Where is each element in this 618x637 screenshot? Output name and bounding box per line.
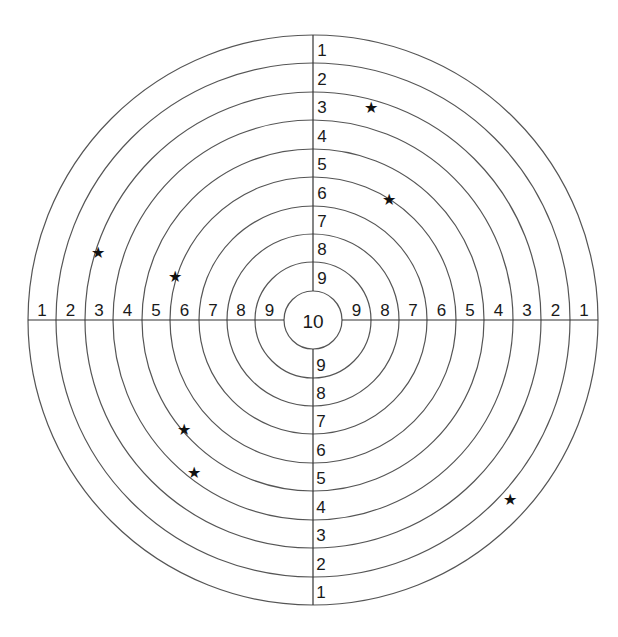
star-icon: ★ xyxy=(187,465,201,481)
bottom-label-9: 9 xyxy=(316,356,325,373)
bottom-label-6: 6 xyxy=(316,441,325,458)
top-label-8: 8 xyxy=(317,241,326,258)
left-label-6: 6 xyxy=(180,302,189,319)
right-label-3: 3 xyxy=(522,302,531,319)
right-label-8: 8 xyxy=(380,302,389,319)
top-label-6: 6 xyxy=(317,184,326,201)
left-label-1: 1 xyxy=(37,302,46,319)
bottom-label-4: 4 xyxy=(316,498,325,515)
left-label-3: 3 xyxy=(94,302,103,319)
star-icon: ★ xyxy=(364,100,378,116)
left-label-8: 8 xyxy=(236,302,245,319)
star-icon: ★ xyxy=(91,245,105,261)
left-label-2: 2 xyxy=(66,302,75,319)
center-label: 10 xyxy=(302,312,323,331)
star-icon: ★ xyxy=(382,192,396,208)
top-label-4: 4 xyxy=(317,127,326,144)
right-label-1: 1 xyxy=(579,302,588,319)
left-label-5: 5 xyxy=(151,302,160,319)
bottom-label-1: 1 xyxy=(316,584,325,601)
right-label-5: 5 xyxy=(465,302,474,319)
bottom-label-5: 5 xyxy=(316,470,325,487)
right-label-7: 7 xyxy=(408,302,417,319)
right-label-9: 9 xyxy=(352,302,361,319)
right-label-4: 4 xyxy=(494,302,503,319)
bottom-label-7: 7 xyxy=(316,413,325,430)
bottom-label-8: 8 xyxy=(316,385,325,402)
left-label-7: 7 xyxy=(208,302,217,319)
top-label-5: 5 xyxy=(317,156,326,173)
left-label-4: 4 xyxy=(123,302,132,319)
left-label-9: 9 xyxy=(265,302,274,319)
top-label-3: 3 xyxy=(317,99,326,116)
top-label-1: 1 xyxy=(317,42,326,59)
right-label-2: 2 xyxy=(551,302,560,319)
bottom-label-3: 3 xyxy=(316,527,325,544)
top-label-7: 7 xyxy=(317,213,326,230)
right-label-6: 6 xyxy=(437,302,446,319)
star-icon: ★ xyxy=(503,492,517,508)
bottom-label-2: 2 xyxy=(316,555,325,572)
star-icon: ★ xyxy=(177,422,191,438)
star-icon: ★ xyxy=(168,269,182,285)
top-label-2: 2 xyxy=(317,70,326,87)
top-label-9: 9 xyxy=(317,269,326,286)
